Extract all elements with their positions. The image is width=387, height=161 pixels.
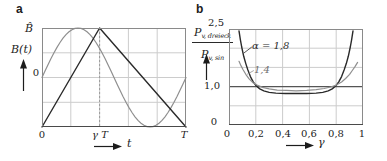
x-tick-02-b: 0,2 bbox=[248, 129, 264, 139]
t-axis-right-arrow-icon bbox=[94, 142, 122, 151]
gamma-axis-right-arrow-icon bbox=[286, 141, 314, 150]
x-tick-0-a: 0 bbox=[39, 130, 45, 140]
ratio-denominator: Pv, sin bbox=[192, 43, 233, 62]
y-axis-ratio-label-b: Pv, dreieck Pv, sin bbox=[192, 23, 233, 61]
figure: a B̂ B(t) 0 0 γ T T t b Pv, dreieck Pv, … bbox=[0, 0, 387, 161]
x-tick-0-b: 0 bbox=[224, 129, 230, 139]
numerator-subscript: v, dreieck bbox=[201, 32, 231, 40]
panel-b-letter: b bbox=[196, 3, 203, 15]
plot-border bbox=[230, 30, 363, 125]
y-tick-one-b: 1,0 bbox=[200, 81, 220, 91]
y-axis-peak-label-a: B̂ bbox=[25, 23, 33, 34]
panel-a-letter: a bbox=[16, 3, 23, 15]
y-tick-max-b: 2,5 bbox=[206, 18, 224, 28]
x-axis-symbol-b: γ bbox=[318, 137, 325, 148]
x-tick-gammaT-a: γ T bbox=[92, 130, 108, 140]
y-axis-up-arrow-icon-a bbox=[19, 59, 28, 91]
curve-label-alpha-1-4: 1,4 bbox=[254, 65, 270, 75]
x-axis-symbol-a: t bbox=[127, 138, 131, 149]
x-tick-06-b: 0,6 bbox=[301, 129, 317, 139]
x-tick-08-b: 0,8 bbox=[328, 129, 344, 139]
y-axis-label-a: B(t) bbox=[11, 44, 32, 55]
x-tick-04-b: 0,4 bbox=[275, 129, 291, 139]
curve-label-alpha-1-8: α = 1,8 bbox=[252, 41, 289, 51]
x-tick-1-b: 1 bbox=[359, 129, 365, 139]
y-tick-zero-a: 0 bbox=[29, 68, 39, 78]
y-tick-zero-b: 0 bbox=[205, 117, 217, 127]
panel-a-plot bbox=[42, 28, 186, 127]
x-tick-T-a: T bbox=[181, 130, 188, 140]
panel-b-plot bbox=[229, 29, 363, 125]
y-axis-up-arrow-icon-b bbox=[202, 54, 211, 80]
